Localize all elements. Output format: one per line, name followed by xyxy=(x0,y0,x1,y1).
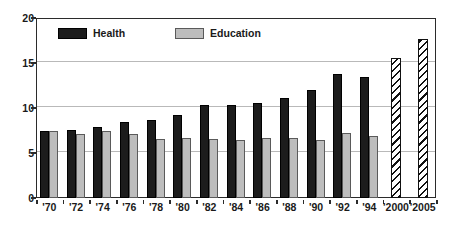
bar-chart: 05101520 '70'72'74'76'78'80'82'84'86'88'… xyxy=(0,0,474,239)
bar-education xyxy=(262,138,271,198)
bar-education xyxy=(289,138,298,198)
legend-label: Education xyxy=(210,28,261,39)
bar-education xyxy=(209,139,218,198)
bar-health xyxy=(120,122,129,199)
bar-education xyxy=(102,131,111,199)
legend-entry-health[interactable]: Health xyxy=(58,28,125,39)
bar-projected xyxy=(418,39,428,198)
x-tick-label: '74 xyxy=(89,202,116,213)
bar-education xyxy=(369,136,378,198)
bar-education xyxy=(76,134,85,198)
x-tick-label: '70 xyxy=(36,202,63,213)
legend-swatch-education xyxy=(175,28,204,39)
bar-education xyxy=(342,133,351,198)
bar-health xyxy=(173,115,182,198)
bar-health xyxy=(280,98,289,198)
chart-legend: HealthEducation xyxy=(58,28,261,39)
bar-health xyxy=(67,130,76,198)
x-tick-label: '72 xyxy=(63,202,90,213)
x-tick-label: '84 xyxy=(223,202,250,213)
bar-health xyxy=(227,105,236,198)
y-tick-label: 20 xyxy=(4,13,34,24)
bars-layer xyxy=(36,18,436,198)
legend-label: Health xyxy=(93,28,125,39)
bar-education xyxy=(129,134,138,198)
x-tick-mark xyxy=(436,200,438,204)
y-tick-label: 0 xyxy=(4,193,34,204)
x-axis: '70'72'74'76'78'80'82'84'86'88'90'92'94'… xyxy=(36,200,436,220)
x-tick-label: '92 xyxy=(329,202,356,213)
bar-education xyxy=(236,140,245,199)
x-tick-label: '82 xyxy=(196,202,223,213)
x-tick-label: '2000 xyxy=(383,202,410,213)
bar-health xyxy=(307,90,316,198)
bar-education xyxy=(316,140,325,199)
bar-health xyxy=(93,127,102,198)
bar-education xyxy=(49,131,58,199)
bar-health xyxy=(40,131,49,198)
x-tick-label: '78 xyxy=(143,202,170,213)
x-tick-label: '90 xyxy=(303,202,330,213)
y-tick-label: 10 xyxy=(4,103,34,114)
bar-health xyxy=(147,120,156,198)
legend-swatch-health xyxy=(58,28,87,39)
y-tick-label: 5 xyxy=(4,148,34,159)
x-tick-label: '76 xyxy=(116,202,143,213)
legend-entry-education[interactable]: Education xyxy=(175,28,261,39)
y-tick-label: 15 xyxy=(4,58,34,69)
x-tick-label: '2005 xyxy=(409,202,436,213)
x-tick-label: '94 xyxy=(356,202,383,213)
bar-health xyxy=(360,77,369,198)
bar-health xyxy=(253,103,262,198)
bar-health xyxy=(333,74,342,198)
bar-health xyxy=(200,105,209,198)
x-tick-label: '88 xyxy=(276,202,303,213)
bar-projected xyxy=(391,58,401,198)
x-tick-label: '80 xyxy=(169,202,196,213)
bar-education xyxy=(182,138,191,198)
x-tick-label: '86 xyxy=(249,202,276,213)
bar-education xyxy=(156,139,165,198)
